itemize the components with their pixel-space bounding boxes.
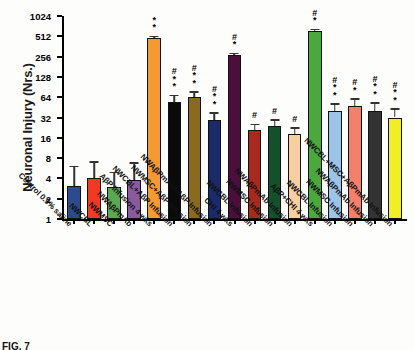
significance-annotation: #**: [332, 77, 337, 100]
error-bar-cap: [170, 95, 179, 97]
error-bar-cap: [290, 127, 299, 129]
significance-annotation: #: [252, 112, 257, 120]
y-tick: 8: [57, 157, 62, 159]
bar[interactable]: [388, 118, 402, 220]
error-bar-cap: [350, 98, 359, 100]
error-bar-cap: [150, 36, 159, 38]
error-bar: [93, 161, 95, 178]
significance-annotation: #**: [212, 86, 217, 109]
y-tick-label: 256: [35, 51, 51, 62]
y-tick-label: 8: [46, 153, 51, 164]
error-bar-cap: [370, 102, 379, 104]
y-tick-label: 128: [35, 71, 51, 82]
error-bar-cap: [70, 166, 79, 168]
y-tick: 1024: [57, 15, 62, 17]
y-tick: 64: [57, 96, 62, 98]
bar-group[interactable]: #**: [188, 16, 202, 219]
significance-annotation: #**: [372, 76, 377, 99]
y-tick-label: 64: [40, 92, 51, 103]
error-bar-cap: [330, 103, 339, 105]
significance-annotation: #**: [192, 65, 197, 88]
y-tick-label: 1: [46, 214, 51, 225]
error-bar: [73, 166, 75, 186]
figure-panel: Neuronal Injury (Nrs.) 12481632641282565…: [0, 0, 414, 350]
error-bar-cap: [90, 161, 99, 163]
significance-annotation: #: [292, 116, 297, 124]
y-tick-label: 32: [40, 112, 51, 123]
significance-annotation: #*: [232, 34, 237, 49]
significance-annotation: #: [272, 108, 277, 116]
bar-group[interactable]: [67, 16, 81, 219]
bar-group[interactable]: #**: [388, 16, 402, 219]
y-tick: 256: [57, 56, 62, 58]
y-tick-label: 512: [35, 31, 51, 42]
y-tick: 512: [57, 35, 62, 37]
bar-group[interactable]: [87, 16, 101, 219]
error-bar-cap: [210, 112, 219, 114]
error-bar-cap: [250, 124, 259, 126]
y-tick-label: 4: [46, 173, 51, 184]
figure-caption: FIG. 7: [2, 341, 30, 350]
y-tick: 16: [57, 137, 62, 139]
y-tick-label: 1024: [30, 11, 51, 22]
significance-annotation: **: [152, 17, 156, 32]
y-tick: 2: [57, 198, 62, 200]
significance-annotation: #*: [352, 79, 357, 94]
error-bar-cap: [310, 29, 319, 31]
y-tick: 128: [57, 76, 62, 78]
significance-annotation: #**: [392, 82, 397, 105]
x-axis-labels: Control 0.9% salineNWCBLNWMSCNWAβPmAbAβP…: [62, 222, 405, 332]
bar-group[interactable]: #**: [368, 16, 382, 219]
significance-annotation: #**: [172, 68, 177, 91]
error-bar-cap: [230, 53, 239, 55]
y-tick-label: 16: [40, 132, 51, 143]
error-bar-cap: [270, 119, 279, 121]
error-bar-cap: [190, 91, 199, 93]
y-tick: 32: [57, 117, 62, 119]
significance-annotation: #*: [312, 10, 317, 25]
y-tick: 4: [57, 177, 62, 179]
error-bar-cap: [390, 108, 399, 110]
